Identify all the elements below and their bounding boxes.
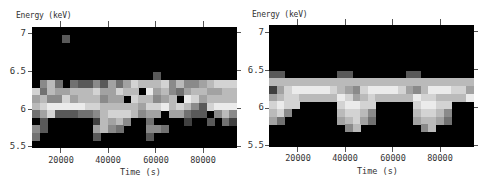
y-tick <box>265 145 269 146</box>
x-tick-top <box>297 19 298 25</box>
x-tick-top <box>60 21 61 27</box>
y-tick <box>28 146 32 147</box>
heatmap-cell <box>207 118 215 126</box>
heatmap-cell <box>153 110 161 118</box>
y-tick-label: 6 <box>4 104 26 114</box>
y-tick <box>28 33 32 34</box>
y-tick <box>28 71 32 72</box>
heatmap-plot-area <box>269 25 474 147</box>
y-tick-label: 5.5 <box>242 140 264 150</box>
right-heatmap-panel: Energy (keV) 7 6.5 6 5.5 20000 40000 600… <box>246 0 492 184</box>
y-tick-label: 5.5 <box>4 141 26 151</box>
x-tick-label: 40000 <box>325 153 365 163</box>
heatmap-cell <box>428 124 436 132</box>
y-tick-right <box>474 69 478 70</box>
x-tick <box>297 147 298 152</box>
y-tick-label: 6.5 <box>4 66 26 76</box>
heatmap-cell <box>466 94 474 102</box>
x-tick-label: 60000 <box>136 155 176 165</box>
x-tick <box>60 148 61 153</box>
x-tick <box>345 147 346 152</box>
y-tick-right <box>237 70 241 71</box>
y-tick-label: 7 <box>242 27 264 37</box>
x-tick-label: 20000 <box>278 153 318 163</box>
y-axis-label: Energy (keV) <box>16 11 71 20</box>
x-tick <box>440 147 441 152</box>
y-tick-right <box>474 31 478 32</box>
heatmap-cell <box>184 118 192 126</box>
x-axis-label: Time (s) <box>120 167 161 177</box>
x-tick-label: 80000 <box>420 153 460 163</box>
x-tick-top <box>155 21 156 27</box>
y-tick-right <box>237 146 241 147</box>
y-tick <box>265 32 269 33</box>
y-tick <box>265 70 269 71</box>
heatmap-cell <box>161 125 169 133</box>
y-tick-right <box>474 145 478 146</box>
y-tick-right <box>237 108 241 109</box>
x-tick-top <box>440 19 441 25</box>
y-tick-label: 6.5 <box>242 65 264 75</box>
heatmap-plot-area <box>32 27 237 148</box>
y-tick-label: 7 <box>4 28 26 38</box>
heatmap-cell <box>277 117 285 125</box>
y-axis-label: Energy (keV) <box>252 10 307 19</box>
x-tick-label: 80000 <box>183 155 223 165</box>
heatmap-cell <box>93 133 101 141</box>
y-tick-label: 6 <box>242 102 264 112</box>
y-tick <box>28 109 32 110</box>
left-heatmap-panel: Energy (keV) 7 6.5 6 5.5 20000 40000 600… <box>0 0 246 184</box>
x-tick <box>203 148 204 153</box>
y-tick <box>265 108 269 109</box>
heatmap-cell <box>62 35 70 43</box>
x-tick-top <box>345 19 346 25</box>
heatmap-cell <box>284 109 292 117</box>
x-axis-label: Time (s) <box>357 166 398 176</box>
heatmap-cell <box>292 101 300 109</box>
heatmap-cell <box>353 124 361 132</box>
x-tick <box>155 148 156 153</box>
heatmap-cell <box>40 125 48 133</box>
x-tick <box>108 148 109 153</box>
x-tick-top <box>203 21 204 27</box>
heatmap-cell <box>146 133 154 141</box>
y-tick-right <box>474 107 478 108</box>
heatmap-cell <box>116 125 124 133</box>
x-tick-top <box>392 19 393 25</box>
heatmap-cell <box>32 133 40 141</box>
heatmap-cell <box>229 118 237 126</box>
x-tick-label: 20000 <box>41 155 81 165</box>
y-tick-right <box>237 32 241 33</box>
heatmap-cell <box>368 117 376 125</box>
x-tick-label: 40000 <box>88 155 128 165</box>
heatmap-cell <box>444 117 452 125</box>
x-tick <box>392 147 393 152</box>
x-tick-label: 60000 <box>373 153 413 163</box>
x-tick-top <box>108 21 109 27</box>
heatmap-cell <box>123 118 131 126</box>
